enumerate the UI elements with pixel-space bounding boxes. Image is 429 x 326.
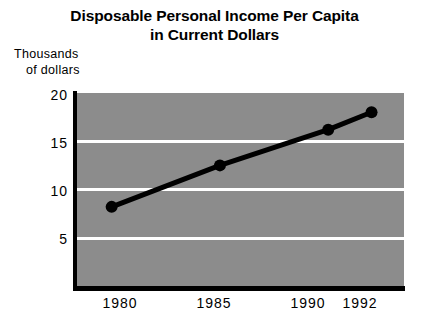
y-axis-label-line-2: of dollars (14, 62, 80, 78)
data-point-1985 (214, 159, 226, 171)
x-tick-label-1980: 1980 (102, 295, 137, 311)
y-axis-tick-labels: 20 15 10 5 (16, 91, 68, 291)
data-point-1980 (106, 201, 118, 213)
x-tick-label-1990: 1990 (290, 295, 325, 311)
data-series-line (77, 93, 404, 286)
x-tick-label-1985: 1985 (196, 295, 231, 311)
data-point-1990 (322, 124, 334, 136)
x-tick-label-1992: 1992 (342, 295, 377, 311)
y-tick-label-10: 10 (24, 184, 68, 198)
y-tick-label-5: 5 (24, 232, 68, 246)
y-axis-label: Thousands of dollars (14, 46, 80, 78)
plot-area (77, 93, 404, 286)
x-axis-tick-labels: 1980 1985 1990 1992 (73, 295, 405, 317)
data-point-1992 (366, 106, 378, 118)
chart-plot-frame (73, 91, 405, 291)
x-axis-line (73, 286, 405, 291)
y-tick-label-20: 20 (24, 88, 68, 102)
y-axis-label-line-1: Thousands (14, 46, 80, 62)
chart-title: Disposable Personal Income Per Capita in… (0, 6, 429, 44)
y-tick-label-15: 15 (24, 136, 68, 150)
chart-title-line-2: in Current Dollars (0, 25, 429, 44)
chart-title-line-1: Disposable Personal Income Per Capita (0, 6, 429, 25)
